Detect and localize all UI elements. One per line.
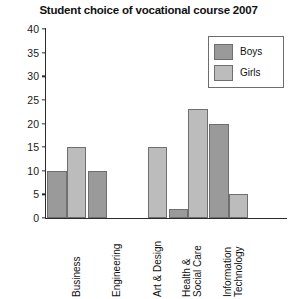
y-axis-tick-mark (42, 194, 46, 195)
y-axis-tick-label: 25 (6, 95, 46, 106)
y-axis-tick-label: 35 (6, 47, 46, 58)
y-axis-tick-label: 30 (6, 71, 46, 82)
y-axis-tick-label: 15 (6, 142, 46, 153)
x-axis-labels: BusinessEngineeringArt & DesignHealth &S… (46, 222, 284, 299)
legend-item-girls: Girls (214, 62, 278, 83)
legend-swatch-boys-icon (214, 44, 233, 60)
chart-title: Student choice of vocational course 2007 (0, 4, 297, 16)
bar-girls-information-technology (229, 194, 249, 218)
y-axis-tick-mark (42, 99, 46, 100)
y-axis-tick-label: 0 (6, 213, 46, 224)
legend-label-boys: Boys (240, 46, 262, 57)
chart-legend: Boys Girls (208, 36, 284, 88)
y-axis-tick-mark (42, 123, 46, 124)
y-axis-tick-mark (42, 146, 46, 147)
y-axis-tick-label: 40 (6, 24, 46, 35)
bar-girls-business (67, 147, 87, 218)
bar-girls-art-design (148, 147, 168, 218)
bar-girls-health-social-care (188, 109, 208, 218)
y-axis-tick-label: 5 (6, 189, 46, 200)
bar-chart: Student choice of vocational course 2007… (0, 0, 297, 299)
y-axis-tick-mark (42, 52, 46, 53)
bar-boys-business (47, 171, 67, 218)
bar-boys-engineering (88, 171, 108, 218)
y-axis-tick-mark (42, 217, 46, 218)
y-axis-tick-label: 20 (6, 118, 46, 129)
legend-swatch-girls-icon (214, 65, 233, 81)
y-axis-tick-label: 10 (6, 166, 46, 177)
y-axis-tick-mark (42, 170, 46, 171)
bar-boys-information-technology (209, 124, 229, 219)
legend-item-boys: Boys (214, 41, 278, 62)
legend-label-girls: Girls (240, 67, 261, 78)
bar-boys-health-social-care (169, 209, 189, 218)
y-axis-tick-mark (42, 76, 46, 77)
x-axis-line (45, 218, 287, 219)
y-axis-tick-mark (42, 28, 46, 29)
